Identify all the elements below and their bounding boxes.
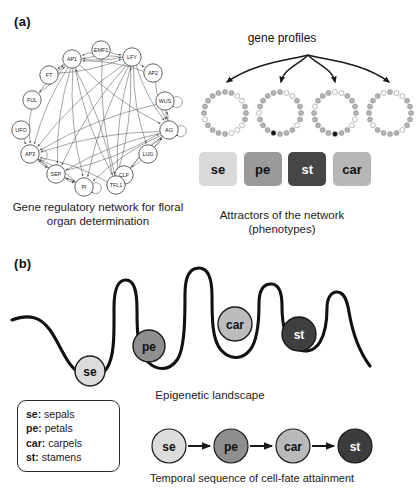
profile-gene-dot <box>257 111 262 116</box>
landscape-ball-car[interactable]: car <box>218 307 252 341</box>
phenotype-box-se[interactable]: se <box>199 152 237 186</box>
phenotype-box-st[interactable]: st <box>288 152 326 186</box>
profile-gene-dot <box>271 91 276 96</box>
network-nodes: AP1EMF1LFYFTAP2FULWUSUFOAGAP3LUGSEPCLFPI… <box>12 41 178 196</box>
network-node-emf1[interactable]: EMF1 <box>92 41 110 59</box>
profile-gene-dot <box>229 91 234 96</box>
profile-rings <box>202 90 414 137</box>
sequence-node-se[interactable]: se <box>152 429 186 463</box>
profile-gene-dot <box>202 111 207 116</box>
profile-gene-dot <box>339 91 344 96</box>
network-node-label: FUL <box>27 97 37 103</box>
profile-gene-dot <box>299 111 304 116</box>
landscape-ball-pe[interactable]: pe <box>133 330 165 362</box>
profile-ring-stamen-profile <box>312 90 359 137</box>
sequence-node-pe[interactable]: pe <box>214 429 248 463</box>
network-node-label: UFO <box>15 127 26 133</box>
network-node-ful[interactable]: FUL <box>23 91 41 109</box>
profile-gene-dot <box>203 104 208 109</box>
profile-gene-dot <box>326 130 331 135</box>
network-edge <box>88 66 129 177</box>
profile-gene-dot <box>223 132 228 137</box>
profile-gene-dot <box>278 132 283 137</box>
landscape-caption: Epigenetic landscape <box>120 388 300 402</box>
profile-gene-dot <box>297 104 302 109</box>
network-node-pi[interactable]: PI <box>75 178 93 196</box>
landscape-ball-label: car <box>226 318 244 332</box>
profile-gene-dot <box>297 117 302 122</box>
network-node-lfy[interactable]: LFY <box>123 48 141 66</box>
profile-gene-dot <box>320 127 325 132</box>
panel-a-label: (a) <box>14 14 31 29</box>
network-node-ag[interactable]: AG <box>160 121 178 139</box>
network-node-label: SEP <box>51 171 62 177</box>
sequence-node-label: se <box>162 440 176 454</box>
profile-gene-dot <box>407 117 412 122</box>
legend-row-se: se: sepals <box>26 407 112 421</box>
network-node-ufo[interactable]: UFO <box>12 121 30 139</box>
profile-gene-dot <box>349 98 354 103</box>
network-node-label: AP1 <box>67 56 77 62</box>
legend-term: carpels <box>45 437 82 449</box>
network-edge <box>57 65 64 70</box>
profile-ring-petal-profile <box>257 90 304 137</box>
temporal-sequence-diagram: sepecarst <box>150 424 376 470</box>
network-node-ft[interactable]: FT <box>40 66 58 84</box>
profile-gene-dot <box>210 127 215 132</box>
phenotype-boxes: sepestcar <box>199 152 371 186</box>
legend-term: sepals <box>41 408 74 420</box>
legend-abbr: pe: <box>26 422 42 434</box>
profile-gene-dot <box>345 94 350 99</box>
profile-gene-dot <box>409 111 414 116</box>
landscape-balls: sepecarst <box>75 307 316 386</box>
legend-abbr: car: <box>26 437 45 449</box>
profile-gene-dot <box>290 94 295 99</box>
phenotype-box-car[interactable]: car <box>333 152 371 186</box>
network-edge <box>110 52 121 55</box>
profile-gene-dot <box>333 132 338 137</box>
network-node-ap3[interactable]: AP3 <box>21 145 39 163</box>
profile-gene-dot <box>316 98 321 103</box>
network-edge <box>76 69 113 176</box>
network-node-ap2[interactable]: AP2 <box>144 64 162 82</box>
legend-abbr: se: <box>26 408 41 420</box>
profile-gene-dot <box>203 117 208 122</box>
network-node-ap1[interactable]: AP1 <box>63 50 81 68</box>
profile-gene-dot <box>407 104 412 109</box>
network-node-label: WUS <box>159 98 172 104</box>
profile-gene-dot <box>294 123 299 128</box>
profile-gene-dot <box>258 117 263 122</box>
profile-gene-dot <box>278 90 283 95</box>
network-node-wus[interactable]: WUS <box>156 92 174 110</box>
network-node-label: AP2 <box>148 70 158 76</box>
phenotype-box-pe[interactable]: pe <box>244 152 282 186</box>
profile-gene-dot <box>375 94 380 99</box>
profile-gene-dot <box>242 104 247 109</box>
profile-gene-dot <box>265 127 270 132</box>
network-caption: Gene regulatory network for floral organ… <box>8 200 188 228</box>
network-node-sep[interactable]: SEP <box>47 165 65 183</box>
network-node-lug[interactable]: LUG <box>139 145 157 163</box>
profile-gene-dot <box>320 94 325 99</box>
profile-gene-dot <box>312 111 317 116</box>
profile-gene-dot <box>326 91 331 96</box>
network-edge <box>166 112 168 121</box>
profile-gene-dot <box>367 111 372 116</box>
landscape-ball-se[interactable]: se <box>75 356 105 386</box>
network-node-tfl1[interactable]: TFL1 <box>107 176 125 194</box>
network-node-label: LUG <box>142 151 153 157</box>
profile-gene-dot <box>216 91 221 96</box>
profile-gene-dot <box>333 90 338 95</box>
landscape-ball-st[interactable]: st <box>282 317 316 351</box>
sequence-node-st[interactable]: st <box>338 429 372 463</box>
profile-gene-dot <box>354 111 359 116</box>
profile-gene-dot <box>313 104 318 109</box>
network-edge <box>139 63 144 67</box>
profile-gene-dot <box>394 130 399 135</box>
profile-gene-dot <box>394 91 399 96</box>
profile-gene-dot <box>339 130 344 135</box>
sequence-caption: Temporal sequence of cell-fate attainmen… <box>128 472 376 485</box>
sequence-node-car[interactable]: car <box>276 429 310 463</box>
profile-gene-dot <box>404 98 409 103</box>
